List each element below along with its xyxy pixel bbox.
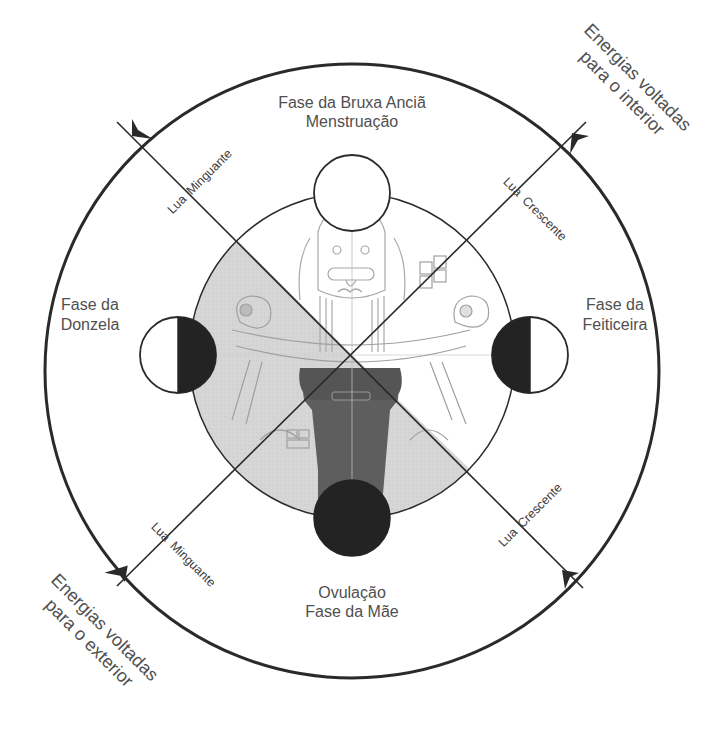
axis-label-top-right-part2: Crescente [519, 194, 569, 244]
phase-label-top-line1: Fase da Bruxa Anciã [278, 94, 426, 111]
axis-label-bottom-left-part1: Lua [148, 520, 173, 545]
phase-label-right-line2: Feiticeira [583, 316, 648, 333]
moon-full-white-icon [314, 155, 390, 231]
axis-label-top-right-part1: Lua [500, 175, 525, 200]
moon-waxing-half-icon [140, 317, 216, 393]
axis-label-top-left-part1: Lua [165, 192, 190, 217]
moon-waning-half-icon [492, 317, 568, 393]
phase-label-right-line1: Fase da [586, 296, 644, 313]
axis-label-top-left-part2: Minguante [184, 146, 235, 197]
axis-label-bottom-left-part2: Minguante [167, 539, 218, 590]
axis-label-bottom-right-part1: Lua [496, 525, 521, 550]
moon-full-dark-icon [314, 480, 390, 556]
phase-label-left-line1: Fase da [61, 296, 119, 313]
phase-label-left-line2: Donzela [61, 316, 120, 333]
axis-label-bottom-right-part2: Crescente [515, 480, 565, 530]
phase-label-top-line2: Menstruação [306, 113, 399, 130]
moon-cycle-diagram: Fase da Bruxa Anciã Menstruação Fase da … [0, 0, 710, 749]
phase-label-bottom-line1: Ovulação [318, 584, 386, 601]
phase-label-bottom-line2: Fase da Mãe [305, 603, 398, 620]
